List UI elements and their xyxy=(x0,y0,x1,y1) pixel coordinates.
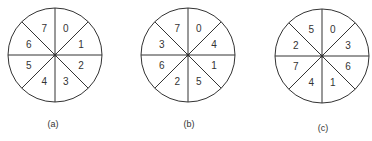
sector-label: 5 xyxy=(308,24,314,35)
center-dot xyxy=(187,54,190,57)
diagram-c: 03614725(c) xyxy=(275,9,369,133)
sector-label: 0 xyxy=(196,23,202,34)
sector-label: 2 xyxy=(78,60,84,71)
sector-label: 5 xyxy=(26,60,32,71)
sector-label: 7 xyxy=(41,23,47,34)
sector-label: 5 xyxy=(196,76,202,87)
sector-label: 7 xyxy=(293,61,299,72)
center-dot xyxy=(321,55,324,58)
sector-label: 4 xyxy=(211,39,217,50)
diagram-a: 01234567(a) xyxy=(8,8,102,129)
sector-label: 4 xyxy=(308,77,314,88)
sector-label: 3 xyxy=(345,40,351,51)
sector-label: 3 xyxy=(63,76,69,87)
sector-label: 0 xyxy=(63,23,69,34)
sector-label: 6 xyxy=(159,60,165,71)
diagram-caption: (b) xyxy=(184,119,195,129)
center-dot xyxy=(54,54,57,57)
sector-label: 6 xyxy=(345,61,351,72)
sector-label: 1 xyxy=(330,77,336,88)
diagram-b: 04152637(b) xyxy=(141,8,235,129)
sector-diagrams-canvas: 01234567(a) 04152637(b) 03614725(c) xyxy=(0,0,372,141)
diagram-caption: (c) xyxy=(318,123,329,133)
sector-label: 1 xyxy=(78,39,84,50)
sector-label: 0 xyxy=(330,24,336,35)
sector-label: 7 xyxy=(174,23,180,34)
sector-label: 3 xyxy=(159,39,165,50)
diagram-caption: (a) xyxy=(48,119,59,129)
sector-label: 6 xyxy=(26,39,32,50)
sector-label: 2 xyxy=(174,76,180,87)
sector-label: 2 xyxy=(293,40,299,51)
sector-label: 1 xyxy=(211,60,217,71)
sector-label: 4 xyxy=(41,76,47,87)
